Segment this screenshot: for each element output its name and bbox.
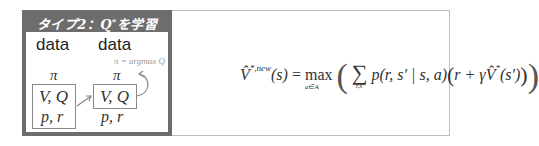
formula-value-arg: (s′) — [500, 66, 520, 83]
title-symbol: Q — [100, 17, 112, 32]
data-label-2: data — [98, 35, 131, 55]
formula-rparen: ) — [528, 57, 539, 94]
formula-max: max — [305, 66, 333, 83]
values-label-1: V, Q — [39, 87, 68, 107]
loop-arrow-icon — [136, 70, 156, 100]
title-suffix: を学習 — [117, 17, 158, 32]
bellman-optimality-formula: V̂*,new(s) = max a∈A ( ∑ r,s′ p(r, s′ | … — [240, 57, 539, 95]
formula-lhs: V̂ — [240, 66, 250, 83]
value-model-box-1: V, Q p, r — [32, 84, 76, 129]
values-label-2: V, Q — [100, 87, 129, 107]
formula-lhs-sup: *,new — [250, 63, 271, 73]
policy-symbol-1: π — [50, 67, 58, 84]
policy-symbol-2: π — [113, 67, 121, 84]
title-prefix: タイプ2： — [37, 17, 101, 32]
transfer-arrow-icon — [76, 92, 94, 110]
formula-inner-rparen: ) — [520, 62, 527, 87]
panel-title: タイプ2：Q*を学習 — [22, 10, 172, 32]
formula-panel: V̂*,new(s) = max a∈A ( ∑ r,s′ p(r, s′ | … — [172, 10, 450, 136]
formula-prob-term: p(r, s′ | s, a) — [372, 66, 447, 83]
model-label-2: p, r — [101, 108, 123, 126]
formula-reward-term: r + γ — [454, 66, 485, 83]
formula-value-term: V̂ — [486, 66, 496, 83]
argmax-annotation: π = argmax Q — [114, 56, 165, 66]
formula-lparen: ( — [337, 57, 348, 94]
type2-panel: タイプ2：Q*を学習 data data π = argmax Q π π V,… — [22, 10, 172, 136]
value-box-2: V, Q — [93, 84, 137, 109]
data-label-1: data — [36, 35, 69, 55]
formula-max-sub: a∈A — [305, 83, 319, 91]
panel-body: data data π = argmax Q π π V, Q p, r V, … — [26, 32, 168, 132]
formula-equals: = — [292, 66, 301, 83]
formula-sum-sub: r,s′ — [356, 82, 364, 90]
formula-lhs-arg: (s) — [271, 66, 288, 83]
model-label-1: p, r — [41, 108, 63, 126]
